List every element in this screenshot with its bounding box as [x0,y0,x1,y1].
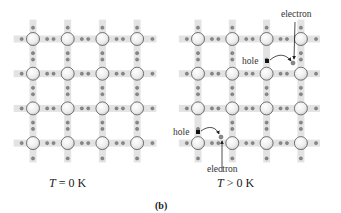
bond-electron [279,72,282,75]
bond-electron [115,142,118,145]
bond-electron [217,107,220,110]
bond-electron [210,37,213,40]
silicon-atom [294,33,307,46]
bond-electron [46,72,49,75]
bond-electron [101,58,104,61]
bond-electron [196,86,199,89]
silicon-atom [61,102,74,115]
lattice-t-zero [14,20,157,163]
bond-electron [66,127,69,130]
bond-electron [231,157,234,160]
bond-electron [20,72,23,75]
bond-electron [265,127,268,130]
silicon-atom [260,33,273,46]
bond-electron [185,72,188,75]
bond-electron [66,121,69,124]
bond-electron [136,157,139,160]
bond-electron [31,121,34,124]
bond-electron [285,37,288,40]
bond-electron [87,72,90,75]
silicon-atom [226,67,239,80]
bond-electron [31,58,34,61]
bond-electron [231,26,234,29]
bond-electron [265,157,268,160]
bond-electron [31,86,34,89]
bond-electron [196,52,199,55]
bond-electron [299,52,302,55]
silicon-atom [192,137,205,150]
bond-electron [231,52,234,55]
bond-electron [46,107,49,110]
bond-electron [217,142,220,145]
bond-electron [101,93,104,96]
electron-pointer-line [294,22,295,59]
bond-electron [251,72,254,75]
silicon-atom [192,67,205,80]
silicon-atom [131,33,144,46]
hole-marker [196,130,200,134]
bond-electron [196,157,199,160]
bond-electron [210,107,213,110]
bond-electron [185,107,188,110]
bond-electron [245,107,248,110]
hole-to-electron-arrow [201,127,219,134]
silicon-atom [131,102,144,115]
bond-electron [231,93,234,96]
bond-electron [136,121,139,124]
bond-electron [66,86,69,89]
free-electron-dot [219,135,223,139]
bond-electron [196,93,199,96]
electron-label-top: electron [281,9,312,19]
bond-electron [52,142,55,145]
bond-electron [231,86,234,89]
lattice-t-above-zero [179,20,320,163]
bond-electron [115,72,118,75]
bond-electron [151,107,154,110]
silicon-atom [27,102,40,115]
bond-electron [265,121,268,124]
silicon-atom [294,102,307,115]
bond-electron [31,127,34,130]
bond-electron [314,142,317,145]
bond-electron [121,142,124,145]
bond-electron [20,107,23,110]
bond-electron [136,26,139,29]
silicon-atom [260,102,273,115]
bond-electron [66,26,69,29]
bond-electron [265,86,268,89]
bond-electron [80,72,83,75]
bond-electron [66,93,69,96]
temperature-label-left: T = 0 K [49,176,86,191]
bond-electron [121,37,124,40]
silicon-atom [226,102,239,115]
bond-electron [31,93,34,96]
temperature-variable: T [49,176,56,190]
bond-electron [151,72,154,75]
bond-electron [299,58,302,61]
bond-electron [151,37,154,40]
bond-electron [245,72,248,75]
bond-electron [196,26,199,29]
bond-electron [314,107,317,110]
bond-electron [31,26,34,29]
bond-electron [314,37,317,40]
silicon-atom [27,137,40,150]
silicon-atom [27,33,40,46]
silicon-atom [61,67,74,80]
silicon-atom [96,102,109,115]
hole-to-electron-arrow [270,55,291,61]
silicon-atom [96,67,109,80]
bond-electron [101,52,104,55]
bond-electron [87,37,90,40]
bond-electron [101,127,104,130]
bond-electron [285,142,288,145]
bond-electron [66,52,69,55]
silicon-atom [96,137,109,150]
bond-electron [299,127,302,130]
electron-label-bottom: electron [207,164,238,174]
bond-electron [66,58,69,61]
bond-electron [231,121,234,124]
bond-electron [196,58,199,61]
bond-electron [299,157,302,160]
bond-electron [46,37,49,40]
